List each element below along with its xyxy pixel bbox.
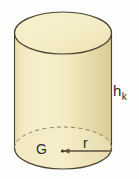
height-label: hk <box>113 83 127 102</box>
radius-label: r <box>83 136 88 150</box>
cylinder-figure: hk G r <box>0 0 139 179</box>
cylinder-top-base <box>15 12 112 54</box>
height-subscript: k <box>122 91 127 102</box>
center-point-marker <box>61 149 64 152</box>
height-symbol: h <box>113 82 121 99</box>
base-area-label: G <box>36 142 47 156</box>
